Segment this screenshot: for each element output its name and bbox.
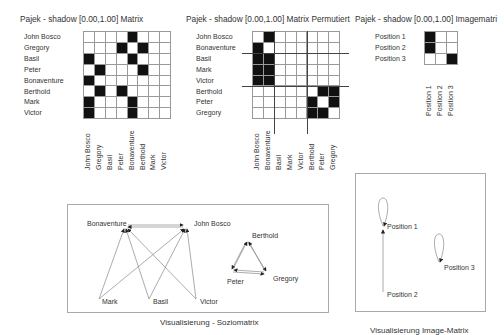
- permuted-cell: [274, 75, 285, 86]
- permuted-cell: [296, 97, 307, 108]
- permuted-row-label: Gregory: [196, 107, 221, 118]
- matrix-cell: [94, 42, 105, 53]
- matrix-cell: [116, 75, 127, 86]
- permuted-cell: [285, 97, 296, 108]
- matrix-cell: [116, 42, 127, 53]
- matrix-cell: [84, 97, 95, 108]
- matrix-cell: [138, 108, 149, 119]
- permuted-cell: [274, 108, 285, 119]
- partition-line-vertical: [274, 31, 275, 134]
- node-bonaventure: Bonaventure: [87, 220, 127, 227]
- permuted-cell: [307, 32, 318, 43]
- matrix-cell: [116, 97, 127, 108]
- permuted-cell: [263, 75, 274, 86]
- matrix-cell: [105, 86, 116, 97]
- permuted-row-label: Berthold: [196, 86, 222, 97]
- permuted-cell: [329, 108, 340, 119]
- matrix-col-label: Victor: [160, 152, 167, 170]
- matrix-row: [84, 32, 171, 43]
- permuted-cell: [307, 64, 318, 75]
- permuted-cell: [253, 75, 264, 86]
- matrix-row: [84, 42, 171, 53]
- matrix-cell: [149, 53, 160, 64]
- matrix-cell: [84, 32, 95, 43]
- matrix-row-label: Peter: [24, 64, 41, 75]
- matrix-row: [84, 108, 171, 119]
- permuted-row: [253, 75, 340, 86]
- matrix-cell: [160, 53, 171, 64]
- permuted-col-label: Peter: [318, 153, 325, 170]
- permuted-cell: [296, 32, 307, 43]
- permuted-cell: [307, 53, 318, 64]
- node-john-bosco: John Bosco: [194, 220, 231, 227]
- image-matrix-row: [425, 53, 458, 64]
- matrix-cell: [160, 32, 171, 43]
- matrix-row-label: Berthold: [24, 86, 50, 97]
- matrix-cell: [127, 86, 138, 97]
- matrix-cell: [160, 64, 171, 75]
- node-victor: Victor: [200, 298, 218, 305]
- matrix-col-label: Bonaventure: [128, 130, 135, 170]
- permuted-row-label: Basil: [196, 53, 211, 64]
- matrix-cell: [105, 64, 116, 75]
- node-gregory: Gregory: [273, 275, 299, 283]
- permuted-row: [253, 86, 340, 97]
- matrix-cell: [149, 97, 160, 108]
- permuted-row: [253, 32, 340, 43]
- node-berthold: Berthold: [252, 232, 278, 239]
- matrix-cell: [105, 75, 116, 86]
- matrix-cell: [105, 32, 116, 43]
- permuted-cell: [253, 108, 264, 119]
- permuted-col-label: Victor: [297, 152, 304, 170]
- matrix-cell: [149, 42, 160, 53]
- matrix-col-label: John Bosco: [84, 134, 91, 171]
- permuted-row-label: Peter: [196, 96, 213, 107]
- image-graph-panel: Position 1 Position 3 Position 2: [355, 173, 486, 312]
- permuted-cell: [318, 86, 329, 97]
- permuted-row: [253, 64, 340, 75]
- matrix-row-label: John Bosco: [24, 31, 61, 42]
- matrix-row: [84, 75, 171, 86]
- permuted-cell: [274, 53, 285, 64]
- permuted-cell: [329, 42, 340, 53]
- permuted-cell: [263, 97, 274, 108]
- matrix-row: [84, 86, 171, 97]
- permuted-cell: [329, 53, 340, 64]
- permuted-cell: [318, 32, 329, 43]
- permuted-row-label: Bonaventure: [196, 42, 236, 53]
- permuted-cell: [285, 32, 296, 43]
- matrix-cell: [149, 108, 160, 119]
- permuted-row-label: Mark: [196, 64, 212, 75]
- matrix-cell: [94, 64, 105, 75]
- permuted-cell: [329, 86, 340, 97]
- matrix-cell: [94, 53, 105, 64]
- image-matrix-title: Pajek - shadow [0.00,1.00] Imagematri: [355, 14, 497, 24]
- image-matrix-cell: [435, 53, 446, 64]
- adjacency-matrix: [83, 31, 171, 119]
- matrix-row-label: Basil: [24, 53, 39, 64]
- permuted-cell: [307, 97, 318, 108]
- image-matrix-cell: [425, 42, 436, 53]
- matrix-cell: [138, 75, 149, 86]
- permuted-cell: [318, 42, 329, 53]
- image-matrix: [424, 31, 458, 65]
- image-matrix-col-label: Position 3: [447, 85, 454, 116]
- matrix-cell: [127, 64, 138, 75]
- matrix-col-label: Gregory: [95, 145, 102, 170]
- matrix-cell: [94, 86, 105, 97]
- permuted-cell: [253, 53, 264, 64]
- permuted-cell: [285, 42, 296, 53]
- matrix-cell: [94, 32, 105, 43]
- partition-line-vertical: [307, 31, 308, 134]
- matrix-cell: [84, 42, 95, 53]
- permuted-cell: [307, 42, 318, 53]
- permuted-row: [253, 53, 340, 64]
- permuted-cell: [274, 32, 285, 43]
- matrix-cell: [105, 53, 116, 64]
- permuted-col-label: Berthold: [308, 144, 315, 170]
- permuted-cell: [274, 42, 285, 53]
- matrix-cell: [94, 97, 105, 108]
- matrix-cell: [116, 108, 127, 119]
- matrix-col-label: Basil: [106, 155, 113, 170]
- matrix-cell: [149, 75, 160, 86]
